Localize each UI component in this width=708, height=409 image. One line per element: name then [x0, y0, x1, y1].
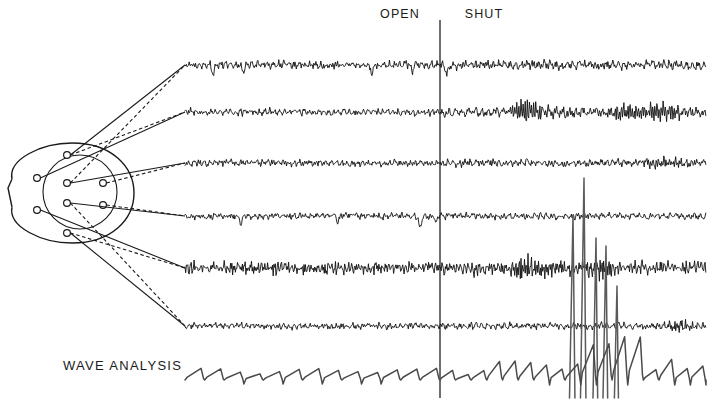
lead-dashed-5	[70, 233, 185, 268]
eeg-trace-channel-2	[185, 99, 706, 122]
electrode-e5	[64, 200, 71, 207]
eeg-figure: OPEN SHUT WAVE ANALYSIS	[0, 0, 708, 409]
eeg-trace-channel-6	[185, 319, 706, 332]
label-open: OPEN	[380, 7, 420, 21]
eeg-trace-channel-5	[185, 253, 706, 281]
eeg-trace-channel-1	[185, 59, 706, 76]
electrode-e1	[34, 175, 41, 182]
inner-head-circle	[43, 155, 117, 229]
electrode-e7	[100, 180, 107, 187]
electrode-e4	[64, 180, 71, 187]
wave-analysis-trace	[185, 337, 706, 385]
label-shut: SHUT	[465, 7, 503, 21]
lead-solid-3	[70, 163, 185, 183]
electrode-e2	[34, 207, 41, 214]
eeg-trace-channel-4	[185, 212, 706, 227]
lead-solid-1	[70, 65, 185, 155]
eeg-canvas: OPEN SHUT WAVE ANALYSIS	[0, 0, 708, 409]
label-wave-analysis: WAVE ANALYSIS	[63, 358, 182, 373]
lead-solid-5	[40, 210, 185, 268]
electrode-e3	[64, 152, 71, 159]
spike-artifact-5	[614, 286, 618, 398]
lead-dashed-2	[70, 112, 185, 155]
eeg-trace-channel-3	[185, 156, 706, 169]
lead-dashed-6	[70, 203, 185, 326]
lead-dashed-4	[106, 205, 185, 216]
electrode-lead-lines	[40, 65, 185, 326]
lead-dashed-1	[70, 65, 185, 183]
wave-analysis-path	[185, 337, 706, 385]
lead-dashed-3	[106, 163, 185, 183]
electrode-e6	[64, 230, 71, 237]
lead-solid-6	[70, 233, 185, 326]
head-schematic	[8, 143, 134, 243]
eeg-trace-group	[185, 59, 706, 332]
